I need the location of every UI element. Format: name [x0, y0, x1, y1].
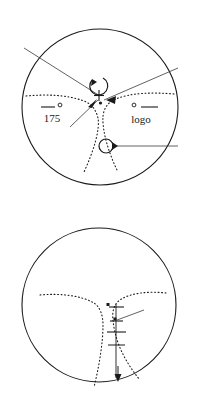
center-dot-marker	[99, 101, 102, 104]
marker-circle-175-icon	[58, 103, 62, 107]
label-logo: logo	[131, 113, 151, 125]
upper-diagram-canvas: 175 logo	[0, 0, 197, 203]
loop-lower-arc	[99, 139, 113, 153]
label-175: 175	[44, 112, 61, 124]
marker-circle-logo-icon	[132, 103, 136, 107]
upper-circular-diagram: 175 logo	[0, 0, 197, 203]
dotted-curve-right	[103, 93, 174, 172]
dotted-curve-right-lower	[113, 292, 166, 380]
outer-boundary-circle-lower	[22, 228, 176, 382]
figure-page: 175 logo	[0, 0, 197, 406]
dotted-curve-left	[26, 95, 98, 172]
node-dot-mid-icon	[114, 318, 117, 321]
node-dot-top-icon	[107, 303, 110, 306]
lower-diagram-canvas	[0, 203, 197, 406]
center-arrowhead-left-icon	[88, 99, 97, 108]
leader-line-mid-node	[117, 310, 144, 320]
loop-lower-arrowhead-icon	[112, 142, 118, 150]
lower-circular-diagram	[0, 203, 197, 406]
leader-line-upper-left	[24, 48, 100, 96]
leader-line-upper-right	[104, 68, 178, 100]
dotted-curve-left-lower	[40, 294, 103, 387]
loop-upper-arrowhead-icon	[91, 79, 97, 86]
